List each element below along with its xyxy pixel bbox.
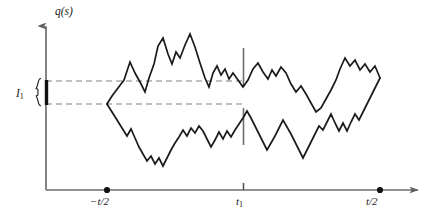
x-tick-label-t-sub-1: t1 — [236, 196, 243, 209]
x-tick-label-t1-subscript: 1 — [239, 200, 243, 209]
marker-minus-t-over-2 — [104, 187, 110, 193]
figure-container: q(s) I1 −t/2 t1 t/2 — [0, 0, 433, 220]
x-axis-markers-group — [104, 183, 383, 193]
figure-canvas — [0, 0, 433, 220]
interval-brace-icon — [36, 79, 40, 106]
axes-group — [46, 26, 418, 190]
marker-t-over-2 — [377, 187, 383, 193]
interval-label: I1 — [16, 88, 24, 101]
x-tick-label-minus-t-over-2: −t/2 — [90, 196, 109, 207]
x-tick-label-t-over-2: t/2 — [366, 196, 378, 207]
y-axis-label: q(s) — [55, 6, 73, 18]
interval-label-subscript: 1 — [20, 92, 24, 101]
